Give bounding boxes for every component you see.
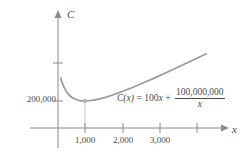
equation-function-name: C(x) (117, 94, 134, 104)
equation-annotation: C(x) = 100x + 100,000,000 x (117, 88, 225, 110)
equation-plus-sign: + (165, 94, 170, 104)
equation-fraction-denominator: x (198, 99, 202, 109)
equation-fraction: 100,000,000 x (175, 88, 225, 110)
minimum-point-marker (83, 99, 87, 103)
equation-linear-term: 100x (144, 94, 162, 104)
y-tick-label-200000: 200,000 (14, 95, 56, 104)
x-axis-arrowhead (221, 125, 229, 132)
y-axis-label: C (67, 9, 74, 20)
x-tick-label-2000: 2,000 (107, 136, 139, 145)
equation-fraction-numerator: 100,000,000 (175, 88, 225, 98)
x-tick-label-1000: 1,000 (69, 136, 101, 145)
equation-linear-coefficient: 100 (144, 93, 158, 103)
x-axis-label: x (232, 124, 237, 135)
equation-equals-sign: = (136, 94, 141, 104)
equation-linear-variable: x (159, 93, 163, 103)
y-axis-arrowhead (55, 10, 62, 18)
cost-function-figure: C x 200,000 1,000 2,000 3,000 C(x) = 100… (0, 0, 248, 165)
x-tick-label-3000: 3,000 (144, 136, 176, 145)
